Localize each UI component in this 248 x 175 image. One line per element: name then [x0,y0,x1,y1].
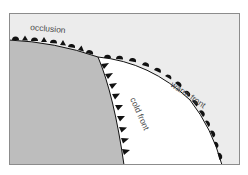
occluded-front-diagram: occlusion warm front cold front [0,0,248,175]
